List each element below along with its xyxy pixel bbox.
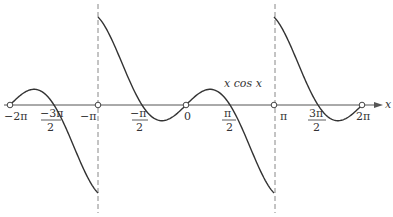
open-point-marker — [359, 102, 365, 108]
function-label: x cos x — [224, 77, 263, 90]
plot-figure: x −2π −3π 2 −π −π 2 0 π 2 π 3π — [0, 0, 393, 217]
open-point-marker — [7, 102, 13, 108]
tick-label-zero: 0 — [184, 110, 191, 123]
svg-text:3π: 3π — [309, 107, 323, 120]
svg-text:2: 2 — [136, 121, 143, 134]
x-axis-arrow-icon — [374, 102, 383, 108]
tick-label-neg-pi: −π — [80, 110, 96, 123]
svg-text:−π: −π — [130, 107, 146, 120]
tick-label-neg-2pi: −2π — [4, 110, 27, 123]
x-axis-label: x — [385, 98, 392, 111]
open-point-marker — [271, 102, 277, 108]
tick-label-pi: π — [280, 110, 287, 123]
svg-text:2: 2 — [313, 121, 320, 134]
tick-label-neg-pi-over-2: −π 2 — [130, 107, 148, 134]
tick-label-2pi: 2π — [356, 110, 370, 123]
open-point-marker — [95, 102, 101, 108]
plot-svg: x −2π −3π 2 −π −π 2 0 π 2 π 3π — [0, 0, 393, 217]
open-point-marker — [183, 102, 189, 108]
svg-text:2: 2 — [47, 121, 54, 134]
tick-label-neg-3pi-over-2: −3π 2 — [40, 107, 63, 134]
svg-text:π: π — [224, 107, 231, 120]
svg-text:2: 2 — [226, 121, 233, 134]
svg-text:−3π: −3π — [40, 107, 63, 120]
tick-label-3pi-over-2: 3π 2 — [308, 107, 326, 134]
